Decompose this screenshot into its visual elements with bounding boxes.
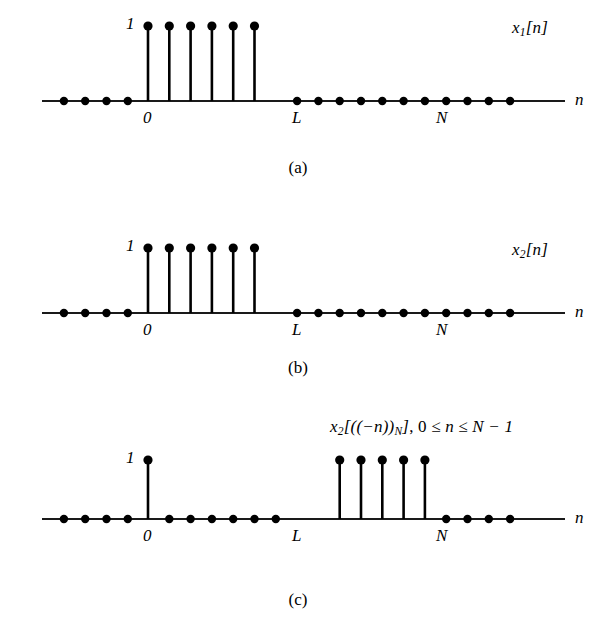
panel-a: 1 0 L N n x1[n] (a)	[0, 0, 606, 215]
signal-label-c-minus-n: −n	[362, 417, 382, 436]
tick-label-L-a: L	[292, 108, 302, 128]
axis-name-b: n	[575, 302, 584, 322]
signal-label-c-base: x	[330, 417, 338, 436]
tick-label-N-c: N	[436, 526, 448, 546]
signal-label-c-n-var: n	[441, 417, 459, 436]
less-equal-icon-1: ≤	[431, 417, 441, 436]
amplitude-label-a: 1	[126, 14, 135, 34]
signal-label-b-base: x	[512, 240, 520, 259]
stems-a	[143, 21, 259, 101]
amplitude-label-b: 1	[126, 236, 135, 256]
tick-label-L-c: L	[292, 526, 302, 546]
signal-label-b-bracket: [n]	[526, 240, 548, 259]
signal-label-c-bracket-close: ))	[383, 417, 395, 436]
signal-label-c-bracket-open: [((	[344, 417, 363, 436]
amplitude-label-c: 1	[126, 448, 135, 468]
axis-name-a: n	[575, 90, 584, 110]
panel-c: 1 0 L N n x2[((−n))N], 0 ≤ n ≤ N − 1 (c)	[0, 395, 606, 641]
tick-label-N-b: N	[436, 320, 448, 340]
signal-label-a-base: x	[512, 18, 520, 37]
signal-label-b: x2[n]	[512, 240, 548, 261]
signal-label-c-tail: N − 1	[468, 417, 513, 436]
tick-label-N-a: N	[436, 108, 448, 128]
signal-label-a-bracket: [n]	[526, 18, 548, 37]
caption-a: (a)	[238, 158, 358, 178]
axis-name-c: n	[575, 508, 584, 528]
stems-b	[143, 243, 259, 313]
tick-label-origin-a: 0	[143, 108, 152, 128]
less-equal-icon-2: ≤	[458, 417, 468, 436]
caption-b: (b)	[238, 358, 358, 378]
signal-label-c-comma: , 0	[409, 417, 431, 436]
signal-label-a: x1[n]	[512, 18, 548, 39]
caption-c: (c)	[238, 590, 358, 610]
tick-label-origin-b: 0	[143, 320, 152, 340]
tick-label-origin-c: 0	[143, 526, 152, 546]
stems-c	[143, 455, 429, 519]
panel-b: 1 0 L N n x2[n] (b)	[0, 215, 606, 395]
signal-label-c: x2[((−n))N], 0 ≤ n ≤ N − 1	[330, 417, 513, 438]
figure-root: 1 0 L N n x1[n] (a)	[0, 0, 606, 641]
tick-label-L-b: L	[292, 320, 302, 340]
